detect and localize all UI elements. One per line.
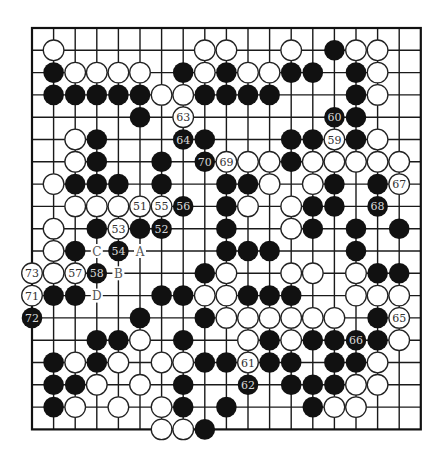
- white-stone: [389, 330, 410, 351]
- white-stone: [65, 397, 86, 418]
- move-number: 69: [219, 156, 233, 169]
- white-stone: [65, 352, 86, 373]
- white-stone: [389, 285, 410, 306]
- black-stone: [281, 352, 302, 373]
- move-number: 65: [392, 312, 406, 325]
- white-stone: [303, 174, 324, 195]
- black-stone: [216, 62, 237, 83]
- move-number: 54: [111, 245, 125, 258]
- point-label-b: B: [114, 267, 123, 281]
- white-stone: [346, 152, 367, 173]
- black-stone: [87, 352, 108, 373]
- black-stone: [303, 218, 324, 239]
- white-stone: [324, 152, 345, 173]
- move-number: 53: [111, 223, 125, 236]
- black-stone: [87, 85, 108, 106]
- black-stone: [303, 196, 324, 217]
- black-stone: [367, 174, 388, 195]
- black-stone: [259, 85, 280, 106]
- white-stone: [151, 352, 172, 373]
- black-stone: [43, 285, 64, 306]
- white-stone: [195, 62, 216, 83]
- white-stone: [367, 352, 388, 373]
- white-stone: [259, 174, 280, 195]
- white-stone: [173, 85, 194, 106]
- white-stone: [195, 285, 216, 306]
- go-board[interactable]: 5152535455565758596061626364656667686970…: [0, 0, 447, 470]
- white-stone: [173, 352, 194, 373]
- move-number: 64: [176, 134, 190, 147]
- white-stone: [130, 62, 151, 83]
- white-stone: [324, 397, 345, 418]
- white-stone: [238, 152, 259, 173]
- white-stone: [130, 330, 151, 351]
- white-stone: [346, 285, 367, 306]
- white-stone: [216, 263, 237, 284]
- black-stone: [195, 308, 216, 329]
- black-stone: [87, 129, 108, 150]
- white-stone: [346, 263, 367, 284]
- black-stone: [173, 62, 194, 83]
- white-stone: [238, 308, 259, 329]
- move-number: 62: [241, 379, 255, 392]
- black-stone: [216, 397, 237, 418]
- white-stone: [367, 285, 388, 306]
- black-stone: [43, 352, 64, 373]
- black-stone: [346, 107, 367, 128]
- black-stone: [346, 352, 367, 373]
- black-stone: [87, 174, 108, 195]
- white-stone: [281, 308, 302, 329]
- white-stone: [151, 85, 172, 106]
- black-stone: [195, 419, 216, 440]
- black-stone: [281, 375, 302, 396]
- black-stone: [281, 129, 302, 150]
- black-stone: [324, 196, 345, 217]
- move-number: 52: [155, 223, 169, 236]
- black-stone: [87, 152, 108, 173]
- black-stone: [324, 375, 345, 396]
- black-stone: [216, 196, 237, 217]
- white-stone: [259, 308, 280, 329]
- move-number: 51: [133, 200, 147, 213]
- move-number: 68: [371, 200, 385, 213]
- black-stone: [259, 241, 280, 262]
- white-stone: [173, 419, 194, 440]
- black-stone: [324, 352, 345, 373]
- white-stone: [65, 129, 86, 150]
- black-stone: [303, 397, 324, 418]
- black-stone: [130, 107, 151, 128]
- move-number: 59: [327, 134, 341, 147]
- white-stone: [43, 241, 64, 262]
- white-stone: [367, 85, 388, 106]
- black-stone: [346, 62, 367, 83]
- white-stone: [151, 419, 172, 440]
- white-stone: [346, 397, 367, 418]
- black-stone: [65, 174, 86, 195]
- move-number: 60: [327, 111, 341, 124]
- white-stone: [238, 62, 259, 83]
- black-stone: [324, 174, 345, 195]
- black-stone: [173, 375, 194, 396]
- move-number: 72: [25, 312, 39, 325]
- white-stone: [281, 330, 302, 351]
- black-stone: [87, 218, 108, 239]
- white-stone: [367, 40, 388, 61]
- black-stone: [195, 85, 216, 106]
- white-stone: [216, 285, 237, 306]
- move-number: 70: [198, 156, 212, 169]
- black-stone: [195, 129, 216, 150]
- black-stone: [346, 241, 367, 262]
- black-stone: [303, 330, 324, 351]
- move-number: 66: [349, 334, 363, 347]
- white-stone: [238, 330, 259, 351]
- move-number: 61: [241, 357, 255, 370]
- black-stone: [303, 129, 324, 150]
- move-number: 58: [90, 267, 104, 280]
- white-stone: [108, 397, 129, 418]
- black-stone: [259, 330, 280, 351]
- black-stone: [151, 174, 172, 195]
- move-number: 57: [68, 267, 82, 280]
- black-stone: [281, 152, 302, 173]
- black-stone: [238, 85, 259, 106]
- white-stone: [108, 196, 129, 217]
